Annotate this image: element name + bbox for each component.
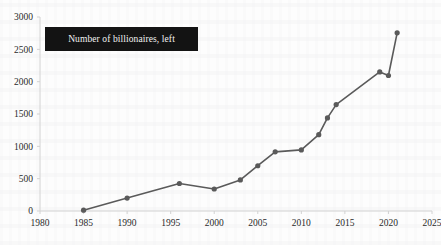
- x-tick-labels: 1980198519901995200020052010201520202025: [31, 218, 441, 228]
- chart-container: 050010001500200025003000 198019851990199…: [0, 0, 441, 245]
- data-point-marker: [273, 149, 278, 154]
- y-tick-label: 0: [28, 206, 33, 216]
- y-tick-label: 3000: [14, 12, 33, 22]
- x-tick-label: 2000: [205, 218, 224, 228]
- data-point-marker: [377, 69, 382, 74]
- data-point-marker: [255, 163, 260, 168]
- y-tick-label: 2000: [14, 77, 33, 87]
- y-tick-label: 500: [19, 174, 34, 184]
- x-axis: 1980198519901995200020052010201520202025: [31, 211, 441, 228]
- y-tick-label: 2500: [14, 45, 33, 55]
- x-tick-label: 2010: [292, 218, 311, 228]
- y-tick-label: 1500: [14, 109, 33, 119]
- x-tick-label: 1985: [74, 218, 93, 228]
- x-tick-label: 1995: [161, 218, 180, 228]
- data-point-marker: [177, 181, 182, 186]
- x-tick-label: 2025: [423, 218, 441, 228]
- data-point-marker: [125, 195, 130, 200]
- legend-label: Number of billionaires, left: [68, 34, 175, 44]
- x-tick-label: 1980: [31, 218, 50, 228]
- data-point-marker: [238, 177, 243, 182]
- x-tick-label: 2020: [379, 218, 398, 228]
- x-tick-label: 2005: [248, 218, 267, 228]
- data-point-marker: [395, 30, 400, 35]
- series-line-billionaires: [84, 33, 398, 210]
- data-point-marker: [325, 115, 330, 120]
- data-series-group: [81, 30, 400, 213]
- data-point-marker: [212, 186, 217, 191]
- series-markers-billionaires: [81, 30, 400, 213]
- x-tick-label: 2015: [335, 218, 354, 228]
- data-point-marker: [299, 147, 304, 152]
- data-point-marker: [81, 208, 86, 213]
- y-tick-labels: 050010001500200025003000: [14, 12, 33, 216]
- y-tick-label: 1000: [14, 142, 33, 152]
- y-axis: 050010001500200025003000: [14, 12, 40, 216]
- data-point-marker: [386, 73, 391, 78]
- legend-badge: Number of billionaires, left: [45, 27, 198, 51]
- data-point-marker: [316, 132, 321, 137]
- x-tick-label: 1990: [118, 218, 137, 228]
- data-point-marker: [334, 102, 339, 107]
